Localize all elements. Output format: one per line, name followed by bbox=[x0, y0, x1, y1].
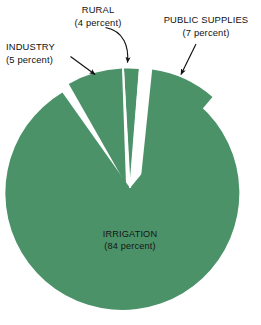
slice-title-irrigation: IRRIGATION bbox=[66, 228, 194, 240]
callout-label-rural: RURAL (4 percent) bbox=[61, 4, 135, 29]
callout-percent-public-supplies: (7 percent) bbox=[152, 27, 260, 40]
slice-label-irrigation: IRRIGATION (84 percent) bbox=[66, 228, 194, 253]
callout-percent-rural: (4 percent) bbox=[61, 17, 135, 30]
callout-title-public-supplies: PUBLIC SUPPLIES bbox=[152, 14, 260, 27]
pie-chart-figure: INDUSTRY (5 percent) RURAL (4 percent) P… bbox=[0, 0, 261, 325]
callout-arrow-public-supplies bbox=[181, 44, 196, 75]
callout-percent-industry: (5 percent) bbox=[6, 54, 55, 67]
callout-arrow-rural bbox=[106, 28, 128, 63]
slice-percent-irrigation: (84 percent) bbox=[66, 240, 194, 252]
callout-title-industry: INDUSTRY bbox=[6, 41, 55, 54]
callout-title-rural: RURAL bbox=[61, 4, 135, 17]
callout-label-industry: INDUSTRY (5 percent) bbox=[6, 41, 55, 66]
callout-label-public-supplies: PUBLIC SUPPLIES (7 percent) bbox=[152, 14, 260, 39]
callout-arrow-industry bbox=[71, 57, 96, 75]
